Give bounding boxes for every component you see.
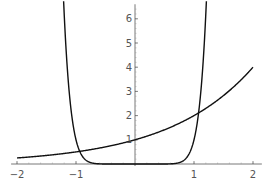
x-tick-label: 1 bbox=[191, 169, 197, 180]
x-tick-label: −1 bbox=[69, 169, 84, 180]
y-tick-label: 2 bbox=[126, 110, 132, 121]
x-tick-label: −2 bbox=[10, 169, 25, 180]
y-tick-label: 5 bbox=[126, 38, 132, 49]
y-tick-label: 1 bbox=[126, 134, 132, 145]
y-tick-label: 6 bbox=[126, 13, 132, 24]
y-tick-label: 4 bbox=[126, 62, 132, 73]
x-tick-label: 2 bbox=[250, 169, 256, 180]
y-tick-label: 3 bbox=[126, 86, 132, 97]
chart: −2−112123456 bbox=[0, 0, 269, 185]
y-axis bbox=[135, 4, 138, 166]
